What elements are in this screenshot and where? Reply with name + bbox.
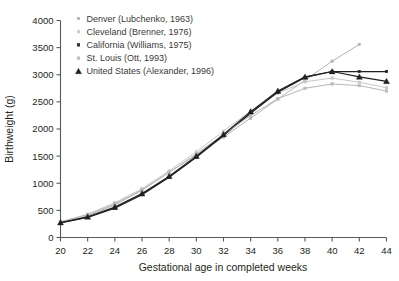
series-3 xyxy=(59,83,388,223)
x-tick-label: 32 xyxy=(218,245,229,256)
series-point xyxy=(249,114,252,117)
x-tick-label: 24 xyxy=(110,245,121,256)
series-1 xyxy=(59,77,388,224)
x-tick-label: 22 xyxy=(82,245,93,256)
series-point xyxy=(358,70,361,73)
x-tick-label: 34 xyxy=(245,245,256,256)
x-tick-label: 20 xyxy=(55,245,66,256)
chart-canvas: 0500100015002000250030003500400020222426… xyxy=(0,0,399,281)
y-tick-label: 2000 xyxy=(32,123,53,134)
legend-marker-3 xyxy=(77,57,80,60)
y-tick-label: 1000 xyxy=(32,178,53,189)
y-axis-title: Birthweight (g) xyxy=(3,95,15,163)
series-line xyxy=(61,72,387,223)
series-line xyxy=(61,84,387,222)
x-tick-label: 38 xyxy=(300,245,311,256)
series-4 xyxy=(58,68,390,224)
x-tick-label: 44 xyxy=(381,245,392,256)
y-tick-label: 3000 xyxy=(32,69,53,80)
series-point xyxy=(331,83,334,86)
y-tick-label: 4000 xyxy=(32,15,53,26)
series-point xyxy=(385,70,388,73)
series-line xyxy=(61,78,387,222)
x-tick-label: 26 xyxy=(137,245,148,256)
series-point xyxy=(277,97,280,100)
x-tick-label: 30 xyxy=(191,245,202,256)
series-point xyxy=(249,117,252,120)
series-point xyxy=(358,81,361,84)
legend-marker-1 xyxy=(77,30,80,33)
y-tick-label: 1500 xyxy=(32,151,53,162)
series-2 xyxy=(59,70,388,224)
legend-marker-2 xyxy=(77,44,80,47)
legend-marker-4 xyxy=(76,68,82,73)
series-point xyxy=(358,84,361,87)
series-point xyxy=(304,81,307,84)
x-tick-label: 40 xyxy=(327,245,338,256)
series-point xyxy=(304,87,307,90)
x-tick-label: 36 xyxy=(273,245,284,256)
y-tick-label: 3500 xyxy=(32,42,53,53)
x-tick-label: 42 xyxy=(354,245,365,256)
legend-label-0: Denver (Lubchenko, 1963) xyxy=(87,14,194,24)
legend-label-3: St. Louis (Ott, 1993) xyxy=(87,53,168,63)
legend-label-2: California (Williams, 1975) xyxy=(87,40,192,50)
series-point xyxy=(331,77,334,80)
legend-label-1: Cleveland (Brenner, 1976) xyxy=(87,27,192,37)
birthweight-gestational-age-chart: 0500100015002000250030003500400020222426… xyxy=(0,0,399,281)
series-point xyxy=(385,90,388,93)
series-point xyxy=(358,43,361,46)
x-tick-label: 28 xyxy=(164,245,175,256)
x-axis-title: Gestational age in completed weeks xyxy=(139,261,308,273)
y-tick-label: 500 xyxy=(38,205,54,216)
legend-label-4: United States (Alexander, 1996) xyxy=(87,66,215,76)
legend-marker-0 xyxy=(77,17,80,20)
series-line xyxy=(61,72,387,223)
legend: Denver (Lubchenko, 1963)Cleveland (Brenn… xyxy=(76,14,215,77)
y-tick-label: 2500 xyxy=(32,96,53,107)
series-point xyxy=(331,60,334,63)
series-point xyxy=(385,87,388,90)
y-tick-label: 0 xyxy=(48,232,53,243)
